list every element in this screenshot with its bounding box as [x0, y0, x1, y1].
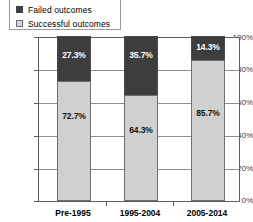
x-tick-label-pre-1995: Pre-1995: [38, 208, 108, 218]
legend-label-failed: Failed outcomes: [28, 5, 92, 15]
bar-group-2005-2014: 14.3% 85.7%: [191, 36, 225, 201]
legend-label-successful: Successful outcomes: [28, 19, 110, 29]
bar-segment-successful-1995-2004: 64.3%: [124, 95, 158, 201]
bar-label-failed-1995-2004: 35.7%: [125, 51, 157, 60]
bar-segment-successful-pre-1995: 72.7%: [57, 81, 91, 201]
bar-label-failed-2005-2014: 14.3%: [192, 43, 224, 52]
x-tick-mark-1: [106, 202, 107, 206]
bar-group-1995-2004: 35.7% 64.3%: [124, 36, 158, 201]
bar-segment-failed-pre-1995: 27.3%: [57, 36, 91, 81]
chart-legend: Failed outcomes Successful outcomes: [9, 0, 121, 30]
legend-swatch-failed-icon: [16, 6, 23, 13]
bar-segment-successful-2005-2014: 85.7%: [191, 60, 225, 201]
x-tick-label-1995-2004: 1995-2004: [105, 208, 175, 218]
bar-group-pre-1995: 27.3% 72.7%: [57, 36, 91, 201]
legend-item-successful: Successful outcomes: [16, 17, 120, 30]
x-tick-label-2005-2014: 2005-2014: [172, 208, 242, 218]
bar-segment-failed-2005-2014: 14.3%: [191, 36, 225, 60]
stacked-bar-chart: Failed outcomes Successful outcomes 100%…: [0, 0, 253, 222]
legend-item-failed: Failed outcomes: [16, 3, 120, 16]
plot-area: 27.3% 72.7% 35.7% 64.3% 14.3% 85.7%: [38, 37, 240, 202]
bar-segment-failed-1995-2004: 35.7%: [124, 36, 158, 95]
x-tick-mark-2: [173, 202, 174, 206]
bar-label-successful-pre-1995: 72.7%: [58, 112, 90, 121]
bar-label-successful-1995-2004: 64.3%: [125, 126, 157, 135]
legend-swatch-successful-icon: [16, 20, 23, 27]
bar-label-failed-pre-1995: 27.3%: [58, 51, 90, 60]
bar-label-successful-2005-2014: 85.7%: [192, 109, 224, 118]
